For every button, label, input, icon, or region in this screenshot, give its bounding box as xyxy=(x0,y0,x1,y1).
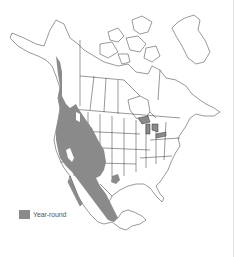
side-divider xyxy=(233,0,234,257)
legend-label-year-round: Year-round xyxy=(33,211,66,218)
year-round-range xyxy=(56,56,120,222)
map-legend: Year-round xyxy=(19,210,66,219)
legend-swatch-year-round xyxy=(19,210,30,219)
